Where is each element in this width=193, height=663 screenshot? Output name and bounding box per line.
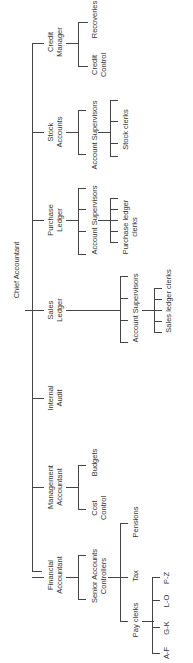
- chief-accountant-box: Chief Accountant: [12, 240, 21, 300]
- tax: Tax: [131, 568, 140, 584]
- pensions: Pensions: [131, 504, 140, 540]
- recoveries: Recoveries: [90, 0, 99, 42]
- stock-account-supervisors: Account Supervisors: [90, 95, 99, 175]
- senior-accounts-controllers: Senior AccountsControllers: [90, 546, 108, 606]
- dept-financial-accountant: FinancialAccountant: [46, 552, 64, 598]
- budgets: Budgets: [90, 445, 99, 480]
- spine-line: [32, 43, 33, 571]
- pay-group-l-o: L-O: [162, 593, 171, 609]
- sales-account-supervisors: Account Supervisors: [131, 268, 140, 348]
- dept-purchase-ledger: PurchaseLedger: [46, 198, 64, 242]
- credit-control: CreditControl: [90, 50, 108, 80]
- dept-sales-ledger: SalesLedger: [46, 290, 64, 330]
- dept-credit-manager: CreditManager: [46, 22, 64, 62]
- dept-internal-audit: InternalAudit: [46, 380, 64, 416]
- pay-clerks: Pay clerks: [131, 600, 140, 640]
- dept-stock-accounts: StockAccounts: [46, 112, 64, 152]
- stock-clerks: Stock clerks: [121, 107, 130, 152]
- sales-ledger-clerks: Sales ledger clerks: [164, 266, 173, 336]
- pay-group-p-z: P-Z: [162, 570, 171, 586]
- dept-management-accountant: ManagementAccountant: [46, 462, 64, 512]
- purchase-ledger-clerks: Purchase ledgerclerks: [121, 192, 139, 262]
- pay-group-g-k: G-K: [162, 620, 171, 636]
- cost-control: CostControl: [90, 493, 108, 523]
- pay-group-a-f: A-F: [162, 645, 171, 661]
